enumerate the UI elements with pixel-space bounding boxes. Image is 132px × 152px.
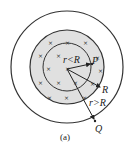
svg-text:×: × xyxy=(38,79,43,86)
point-q-dot xyxy=(94,120,96,122)
svg-text:×: × xyxy=(98,67,103,74)
caption: (a) xyxy=(60,132,70,142)
svg-text:×: × xyxy=(48,39,53,46)
svg-text:×: × xyxy=(65,39,70,46)
svg-text:×: × xyxy=(46,65,51,72)
svg-text:×: × xyxy=(83,39,88,46)
svg-text:×: × xyxy=(38,52,43,59)
label-R: R xyxy=(101,84,108,95)
svg-text:×: × xyxy=(56,52,61,59)
svg-text:×: × xyxy=(64,94,69,101)
magnetic-field-diagram: × × × × × × × × × × × × × × × × r<R P R … xyxy=(0,0,132,152)
svg-text:×: × xyxy=(47,94,52,101)
svg-text:×: × xyxy=(56,79,61,86)
label-q: Q xyxy=(95,123,103,134)
label-r-greater-than-R: r>R xyxy=(89,97,106,108)
label-p: P xyxy=(91,55,98,66)
label-r-less-than-R: r<R xyxy=(63,54,80,65)
